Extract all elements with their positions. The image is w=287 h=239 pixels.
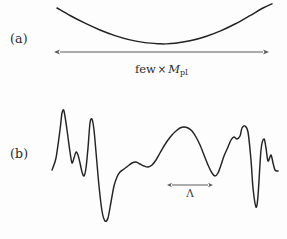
scale-caption-prefix: few: [135, 62, 156, 76]
figure-root: (a) (b) few×Mpl Λ: [0, 0, 287, 239]
panel-b-group: [52, 110, 278, 221]
rugged-potential-curve: [52, 110, 278, 221]
panel-b-label: (b): [10, 146, 28, 161]
scale-caption-symbol: M: [168, 62, 180, 76]
lambda-caption: Λ: [172, 187, 208, 199]
scale-caption-times: ×: [156, 63, 168, 75]
scale-caption-subscript: pl: [180, 68, 188, 77]
figure-canvas: [0, 0, 287, 239]
panel-a-group: [57, 4, 272, 52]
panel-a-label: (a): [10, 31, 28, 46]
parabola-curve: [57, 4, 272, 44]
scale-caption-a: few×Mpl: [60, 62, 263, 77]
